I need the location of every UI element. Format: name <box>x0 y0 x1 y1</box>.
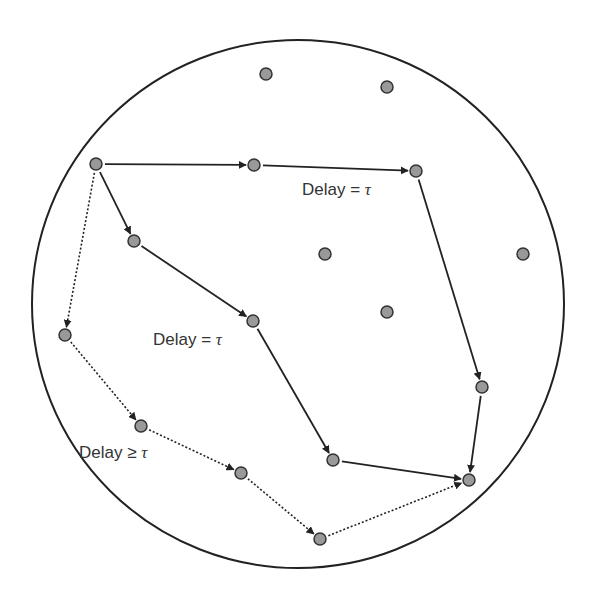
node-n4 <box>517 248 529 260</box>
diagram-svg <box>0 0 590 590</box>
edge-c4-dst <box>328 483 461 536</box>
edge-a2-a3 <box>419 180 480 380</box>
edge-b3-dst <box>342 461 461 479</box>
node-b1 <box>128 235 140 247</box>
node-src <box>90 158 102 170</box>
label-text: Delay = <box>153 330 216 349</box>
upper-path-label: Delay = τ <box>302 180 371 200</box>
node-b3 <box>327 454 339 466</box>
edge-c3-c4 <box>248 479 314 534</box>
edge-src-a1 <box>105 164 246 165</box>
tau-symbol: τ <box>141 443 147 462</box>
edge-src-c1 <box>66 173 94 327</box>
edge-a1-a2 <box>263 165 408 170</box>
node-c3 <box>235 467 247 479</box>
nodes-group <box>59 68 529 545</box>
node-c1 <box>59 329 71 341</box>
node-n2 <box>381 81 393 93</box>
network-boundary-circle <box>32 40 564 568</box>
edge-c1-c2 <box>71 342 136 420</box>
edge-b2-b3 <box>257 329 329 453</box>
node-dst <box>463 474 475 486</box>
edge-b1-b2 <box>141 246 246 317</box>
network-diagram: Delay = τ Delay = τ Delay ≥ τ <box>0 0 590 590</box>
label-text: Delay = <box>302 180 365 199</box>
tau-symbol: τ <box>216 330 222 349</box>
lower-path-label: Delay ≥ τ <box>79 443 147 463</box>
node-a2 <box>410 165 422 177</box>
middle-path-label: Delay = τ <box>153 330 222 350</box>
edge-a3-dst <box>470 396 481 472</box>
edge-src-b1 <box>100 172 130 234</box>
node-b2 <box>247 315 259 327</box>
node-n3 <box>319 248 331 260</box>
node-n5 <box>381 306 393 318</box>
edge-c2-c3 <box>149 430 234 470</box>
tau-symbol: τ <box>365 180 371 199</box>
edges-group <box>66 164 480 536</box>
node-c4 <box>314 533 326 545</box>
node-n1 <box>260 68 272 80</box>
node-c2 <box>135 420 147 432</box>
node-a3 <box>476 381 488 393</box>
node-a1 <box>248 159 260 171</box>
label-text: Delay ≥ <box>79 443 141 462</box>
